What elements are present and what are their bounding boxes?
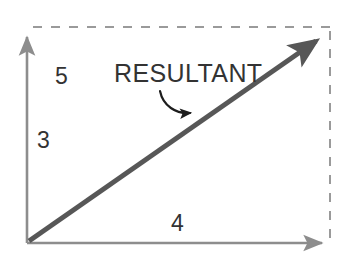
vector-diagram-canvas: RESULTANT 5 3 4 bbox=[0, 0, 352, 262]
magnitude-label-4: 4 bbox=[171, 210, 184, 236]
magnitude-label-5: 5 bbox=[55, 63, 68, 89]
vector-diagram-figure: RESULTANT 5 3 4 bbox=[0, 0, 352, 262]
resultant-label: RESULTANT bbox=[114, 59, 263, 87]
magnitude-label-3: 3 bbox=[37, 127, 50, 153]
curved-pointer-icon bbox=[160, 91, 190, 113]
resultant-annotation-arrow bbox=[160, 91, 190, 113]
